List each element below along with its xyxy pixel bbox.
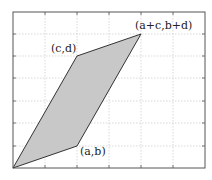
label-c-d: (c,d) bbox=[51, 42, 76, 55]
label-a-b: (a,b) bbox=[80, 145, 106, 158]
label-a-plus-c-b-plus-d: (a+c,b+d) bbox=[135, 19, 192, 32]
parallelogram-diagram: (c,d) (a+c,b+d) (a,b) bbox=[0, 0, 212, 180]
